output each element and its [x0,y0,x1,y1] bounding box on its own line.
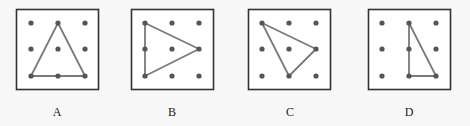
grid-dot [406,46,411,51]
grid-dot [169,46,174,51]
grid-dot [169,20,174,25]
grid-dot [82,20,87,25]
grid-dot [169,73,174,78]
grid-dot [406,73,411,78]
grid-dot [28,20,33,25]
grid-dot [142,46,147,51]
grid-dot [379,20,384,25]
grid-dot [313,46,318,51]
grid-dot [196,20,201,25]
grid-dot [142,20,147,25]
panel-c [249,10,331,90]
grid-dot [55,73,60,78]
grid-dot [28,46,33,51]
grid-dot [433,46,438,51]
grid-dot [82,73,87,78]
grid-dot [379,46,384,51]
option-label-d: D [394,104,424,120]
option-label-c: C [275,104,305,120]
grid-dot [259,20,264,25]
grid-dot [55,20,60,25]
grid-dot [406,20,411,25]
grid-dot [55,46,60,51]
grid-dot [286,46,291,51]
grid-dot [259,46,264,51]
grid-dot [433,20,438,25]
grid-dot [313,20,318,25]
panel-d [369,10,451,90]
grid-dot [82,46,87,51]
grid-dot [313,73,318,78]
panel-a [17,10,99,90]
grid-dot [142,73,147,78]
panel-b [132,10,214,90]
grid-dot [196,73,201,78]
option-label-b: B [157,104,187,120]
option-label-a: A [42,104,72,120]
grid-dot [28,73,33,78]
grid-dot [433,73,438,78]
grid-dot [196,46,201,51]
grid-dot [286,20,291,25]
grid-dot [379,73,384,78]
grid-dot [286,73,291,78]
grid-dot [259,73,264,78]
